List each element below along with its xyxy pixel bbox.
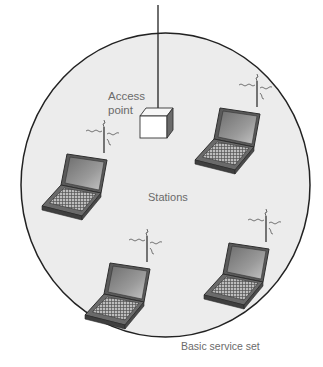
basic-service-set-diagram: Access point Stations Basic service set <box>0 0 323 367</box>
stations-label: Stations <box>148 191 188 203</box>
access-point-label-line2: point <box>108 104 134 116</box>
caption-basic-service-set: Basic service set <box>181 340 260 352</box>
access-point-box-icon <box>140 108 173 138</box>
access-point-label-line1: Access <box>108 90 145 102</box>
